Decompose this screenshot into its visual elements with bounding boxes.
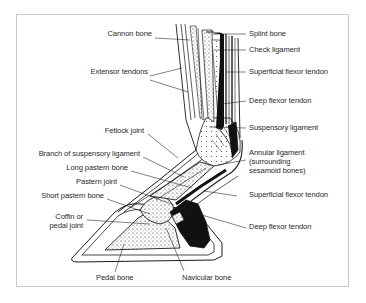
label-long-pastern-bone: Long pastern bone: [58, 163, 128, 172]
label-short-pastern-bone: Short pastern bone: [32, 191, 104, 200]
label-fetlock-joint: Fetlock joint: [98, 126, 144, 135]
long-pastern-bone-shape: [150, 162, 214, 200]
label-superficial-flexor-tendon-upper: Superficial flexor tendon: [249, 67, 328, 76]
label-navicular-bone: Navicular bone: [182, 273, 231, 282]
label-annular-ligament: Annular ligament (surrounding sesamoid b…: [249, 148, 305, 175]
label-deep-flexor-tendon-lower: Deep flexor tendon: [249, 222, 311, 231]
label-check-ligament: Check ligament: [249, 45, 300, 54]
label-pastern-joint: Pastern joint: [68, 177, 117, 186]
label-splint-bone: Splint bone: [249, 29, 286, 38]
label-extensor-tendons: Extensor tendons: [86, 67, 148, 76]
label-coffin-or-pedal-joint: Coffin or pedal joint: [42, 212, 83, 230]
label-deep-flexor-tendon-upper: Deep flexor tendon: [249, 96, 311, 105]
label-pedal-bone: Pedal bone: [96, 273, 133, 282]
label-suspensory-ligament: Suspensory ligament: [249, 123, 318, 132]
label-cannon-bone: Cannon bone: [102, 29, 152, 38]
label-superficial-flexor-tendon-lower: Superficial flexor tendon: [249, 190, 328, 199]
label-branch-of-suspensory-ligament: Branch of suspensory ligament: [26, 149, 140, 158]
